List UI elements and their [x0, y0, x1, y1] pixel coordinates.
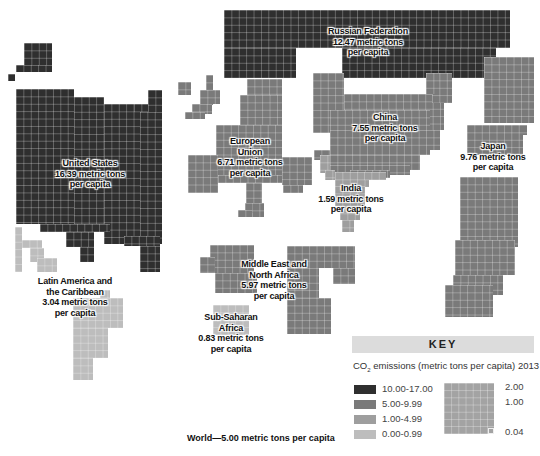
- label-us-unit: per capita: [50, 179, 130, 190]
- key-heading: KEY: [352, 336, 534, 353]
- swatch-0-1: [354, 430, 376, 439]
- label-latam-value: 3.04 metric tons: [35, 297, 115, 308]
- label-japan-unit: per capita: [458, 162, 528, 173]
- label-ssa-name1: Sub-Saharan: [196, 312, 266, 323]
- label-india: India 1.59 metric tons per capita: [316, 183, 386, 215]
- label-mena-name1: Middle East and: [236, 259, 312, 270]
- swatch-label-1-5: 1.00-4.99: [382, 414, 422, 424]
- label-mena: Middle East and North Africa 5.97 metric…: [236, 259, 312, 301]
- key-header: KEY: [352, 336, 534, 353]
- swatch-label-10-17: 10.00-17.00: [382, 384, 433, 394]
- world-average-label: World—5.00 metric tons per capita: [187, 433, 335, 443]
- scale-mini-square: [488, 428, 494, 434]
- label-japan-name: Japan: [458, 141, 528, 152]
- swatch-label-0-1: 0.00-0.99: [382, 429, 422, 439]
- label-eu-value: 6.71 metric tons: [215, 157, 285, 168]
- label-mena-name2: North Africa: [236, 270, 312, 281]
- label-japan-value: 9.76 metric tons: [458, 152, 528, 163]
- label-eu-unit: per capita: [215, 168, 285, 179]
- scale-label-004: 0.04: [505, 426, 524, 437]
- label-ssa-value: 0.83 metric tons: [196, 333, 266, 344]
- label-mena-unit: per capita: [236, 291, 312, 302]
- label-russia-name: Russian Federation: [318, 26, 418, 37]
- label-china-unit: per capita: [350, 133, 420, 144]
- label-russia: Russian Federation 12.47 metric tons per…: [318, 26, 418, 58]
- label-china-value: 7.55 metric tons: [350, 123, 420, 134]
- label-india-unit: per capita: [316, 204, 386, 215]
- label-ssa-name2: Africa: [196, 323, 266, 334]
- label-india-name: India: [316, 183, 386, 194]
- swatch-1-5: [354, 415, 376, 424]
- key-subtitle-co: CO: [353, 360, 367, 371]
- label-latam-name1: Latin America and: [35, 276, 115, 287]
- label-eu-name1: European: [215, 136, 285, 147]
- label-us-value: 16.39 metric tons: [50, 169, 130, 180]
- label-latam-unit: per capita: [35, 308, 115, 319]
- swatch-5-10: [354, 400, 376, 409]
- swatch-10-17: [354, 385, 376, 394]
- scale-label-2: 2.00: [505, 381, 524, 392]
- label-china: China 7.55 metric tons per capita: [350, 112, 420, 144]
- label-russia-value: 12.47 metric tons: [318, 37, 418, 48]
- label-us-name: United States: [50, 158, 130, 169]
- key-subtitle-rest: emissions (metric tons per capita) 2013: [371, 360, 539, 371]
- swatch-label-5-10: 5.00-9.99: [382, 399, 422, 409]
- key-subtitle: CO2 emissions (metric tons per capita) 2…: [353, 360, 539, 373]
- label-mena-value: 5.97 metric tons: [236, 280, 312, 291]
- scale-label-1: 1.00: [505, 396, 524, 407]
- label-us: United States 16.39 metric tons per capi…: [50, 158, 130, 190]
- label-india-value: 1.59 metric tons: [316, 194, 386, 205]
- scale-grid: [444, 383, 494, 434]
- label-latam-name2: the Caribbean: [35, 287, 115, 298]
- label-eu: European Union 6.71 metric tons per capi…: [215, 136, 285, 178]
- label-latin-america: Latin America and the Caribbean 3.04 met…: [35, 276, 115, 318]
- label-ssa-unit: per capita: [196, 344, 266, 355]
- label-russia-unit: per capita: [318, 47, 418, 58]
- label-china-name: China: [350, 112, 420, 123]
- label-eu-name2: Union: [215, 147, 285, 158]
- label-japan: Japan 9.76 metric tons per capita: [458, 141, 528, 173]
- label-ssa: Sub-Saharan Africa 0.83 metric tons per …: [196, 312, 266, 354]
